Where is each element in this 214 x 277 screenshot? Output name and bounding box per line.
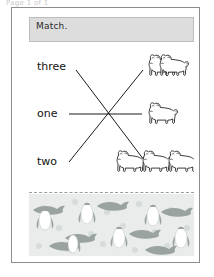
picture-group-top [149,55,188,76]
connector-lines [69,70,147,164]
penguin-whale-pattern [29,194,194,256]
picture-group-bottom [117,151,194,172]
picture-group-middle [149,103,177,124]
connector-three-to-group-bottom [76,70,147,164]
dashed-tear-line [29,192,194,193]
decorative-border-strip [29,194,194,256]
cropped-header-sliver: Page 1 of 1 [6,0,60,7]
worksheet-page-frame: Match. [11,7,200,263]
word-label-three: three [37,61,66,73]
matching-activity-area: three one two [29,46,194,186]
connector-two-to-group-top [69,70,143,162]
word-label-two: two [37,156,57,168]
instruction-text: Match. [36,21,68,32]
word-label-one: one [37,108,57,120]
instruction-banner: Match. [29,17,194,42]
